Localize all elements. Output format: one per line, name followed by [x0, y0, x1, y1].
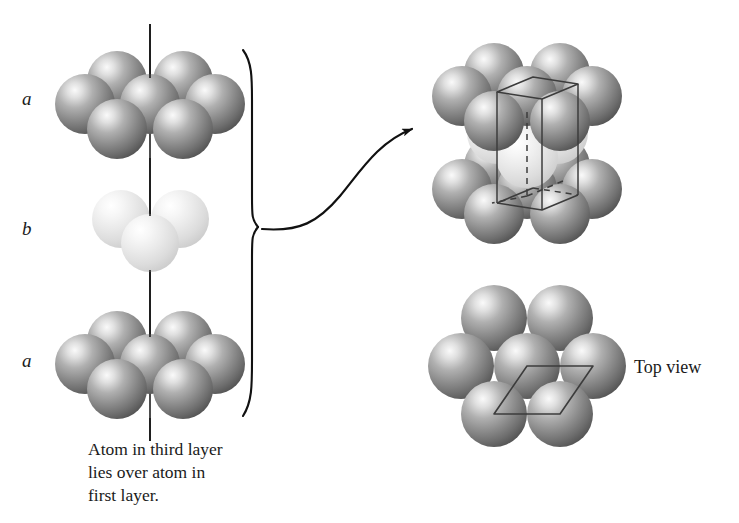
layer-label-bottom-a: a — [22, 351, 32, 370]
top-view-label: Top view — [634, 357, 701, 378]
stacking-caption: Atom in third layer lies over atom in fi… — [88, 438, 223, 506]
unit-cell-diagram — [432, 43, 622, 244]
top-view-diagram — [428, 285, 626, 447]
layer-label-middle-b: b — [22, 219, 32, 238]
layer-label-top-a: a — [22, 89, 32, 108]
hcp-structure-figure: a b a Atom in third layer lies over atom… — [0, 0, 739, 523]
grouping-brace — [243, 50, 258, 416]
curved-arrow — [262, 129, 412, 230]
